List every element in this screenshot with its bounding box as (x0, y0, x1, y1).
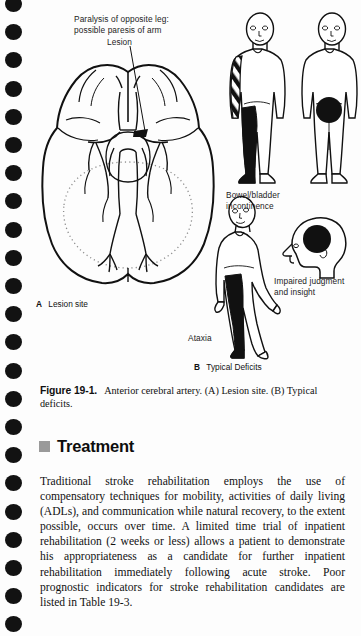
figure-19-1: Paralysis of opposite leg: possible pare… (34, 0, 361, 378)
panel-b-letter: B (194, 362, 200, 372)
binding-hole (5, 334, 22, 350)
label-ataxia: Ataxia (188, 333, 212, 344)
binding-hole (5, 278, 22, 294)
spiral-binding-holes (0, 0, 34, 636)
label-lesion-callout: Lesion (107, 37, 132, 48)
binding-hole (5, 193, 22, 209)
section-bullet-square-icon (39, 441, 50, 452)
binding-hole (5, 419, 22, 435)
binding-hole (5, 306, 22, 322)
black-leg-ataxia (225, 274, 244, 358)
brain-inferior-view (42, 65, 213, 283)
binding-hole (5, 137, 22, 153)
binding-hole (5, 0, 22, 12)
figure-caption: Figure 19-1.Anterior cerebral artery. (A… (40, 385, 347, 410)
binding-hole (5, 447, 22, 463)
figure-number: Figure 19-1. (40, 385, 97, 396)
binding-hole (5, 588, 22, 604)
figure-illustration (34, 0, 361, 378)
binding-hole (5, 250, 22, 266)
binding-hole (5, 532, 22, 548)
binding-hole (5, 109, 22, 125)
binding-hole (5, 475, 22, 491)
label-impaired-judgment: Impaired judgment and insight (274, 276, 344, 297)
binding-hole (5, 52, 22, 68)
binding-hole (5, 165, 22, 181)
panel-a-text: Lesion site (48, 299, 88, 309)
panel-a-letter: A (36, 299, 42, 309)
binding-hole (5, 616, 22, 632)
label-bowel-bladder-incontinence: Bowel/bladder incontinence (226, 190, 280, 211)
panel-b-text: Typical Deficits (206, 362, 261, 372)
textbook-page: Paralysis of opposite leg: possible pare… (0, 0, 361, 636)
section-heading-label: Treatment (57, 437, 134, 456)
bladder-marker (316, 97, 342, 123)
binding-hole (5, 504, 22, 520)
section-heading-treatment: Treatment (39, 437, 339, 456)
binding-hole (5, 391, 22, 407)
binding-hole (5, 363, 22, 379)
panel-b-label: B Typical Deficits (194, 362, 262, 372)
binding-hole (5, 81, 22, 97)
binding-hole (5, 560, 22, 576)
striped-arm-paresis (231, 56, 242, 118)
frontal-lobe-lesion-marker (303, 225, 331, 253)
panel-a-label: A Lesion site (36, 299, 88, 309)
label-paralysis-of-opposite-leg: Paralysis of opposite leg: possible pare… (74, 14, 169, 35)
binding-hole (5, 24, 22, 40)
treatment-paragraph: Traditional stroke rehabilitation employ… (40, 474, 345, 610)
binding-hole (5, 222, 22, 238)
